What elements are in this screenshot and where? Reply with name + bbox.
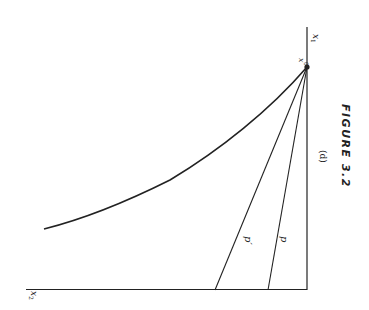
figure-caption: FIGURE 3.2 <box>339 104 352 188</box>
line-p-prime <box>215 67 307 290</box>
x2-label: x 2 <box>28 291 39 300</box>
p-label: p <box>279 236 290 243</box>
p-prime-label: p′ <box>243 236 254 245</box>
svg-text:1: 1 <box>310 39 317 43</box>
line-p <box>268 67 307 290</box>
svg-text:2: 2 <box>28 296 35 300</box>
x0-label: x 0 <box>297 58 310 66</box>
svg-text:(d): (d) <box>318 150 328 163</box>
svg-text:0: 0 <box>303 62 310 66</box>
indifference-curve <box>44 67 307 229</box>
figure-diagram: x 1 x 2 x 0 p′ p (d) FIGURE 3.2 <box>0 0 369 310</box>
x1-label: x 1 <box>310 34 321 43</box>
panel-label: (d) <box>318 150 328 163</box>
svg-text:p′: p′ <box>243 236 254 245</box>
svg-text:FIGURE 3.2: FIGURE 3.2 <box>339 104 352 188</box>
svg-text:p: p <box>279 236 290 243</box>
